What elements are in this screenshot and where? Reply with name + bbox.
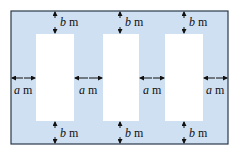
b-label: b m [60,16,78,28]
window-2 [103,34,139,121]
window-1 [36,34,74,121]
b-label: b m [60,127,78,139]
a-label: a m [143,84,161,96]
a-label: a m [206,84,224,96]
a-label: a m [79,84,97,96]
b-label: b m [189,16,207,28]
b-label: b m [189,127,207,139]
window-3 [165,34,203,121]
b-label: b m [125,127,143,139]
a-label: a m [14,84,32,96]
b-label: b m [125,16,143,28]
